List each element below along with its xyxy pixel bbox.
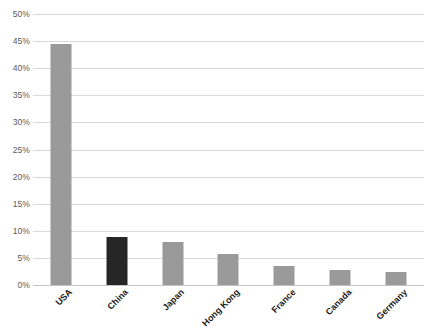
- x-label-slot: USA: [33, 287, 89, 334]
- x-axis-tick-label-japan: Japan: [160, 287, 185, 312]
- y-axis-tick-label: 25%: [0, 146, 30, 155]
- x-label-slot: Germany: [368, 287, 424, 334]
- y-axis-tick-labels: 50%45%40%35%30%25%20%15%10%5%0%: [0, 14, 30, 285]
- x-axis-tick-label-germany: Germany: [374, 287, 409, 322]
- x-label-slot: China: [89, 287, 145, 334]
- bar-slot: [33, 14, 89, 285]
- bar-slot: [368, 14, 424, 285]
- y-axis-tick-label: 15%: [0, 200, 30, 209]
- y-axis-tick-label: 45%: [0, 37, 30, 46]
- y-axis-tick-label: 30%: [0, 118, 30, 127]
- bar-slot: [201, 14, 257, 285]
- x-axis-tick-label-china: China: [105, 287, 130, 312]
- x-label-slot: France: [256, 287, 312, 334]
- bar-china[interactable]: [106, 237, 127, 285]
- x-axis-tick-label-france: France: [269, 287, 297, 315]
- bar-slot: [89, 14, 145, 285]
- bar-germany[interactable]: [386, 272, 407, 285]
- y-axis-tick-label: 0%: [0, 281, 30, 290]
- y-axis-tick-label: 10%: [0, 227, 30, 236]
- bar-slot: [312, 14, 368, 285]
- x-label-slot: Japan: [145, 287, 201, 334]
- y-axis-tick-label: 20%: [0, 173, 30, 182]
- bar-slot: [145, 14, 201, 285]
- y-axis-tick-label: 5%: [0, 254, 30, 263]
- bar-usa[interactable]: [50, 44, 71, 285]
- y-axis-tick-label: 40%: [0, 64, 30, 73]
- x-label-slot: Hong Kong: [201, 287, 257, 334]
- chart-title: [0, 0, 428, 3]
- bar-japan[interactable]: [162, 242, 183, 285]
- bar-canada[interactable]: [330, 270, 351, 285]
- y-axis-tick-label: 50%: [0, 10, 30, 19]
- x-axis-category-labels: USAChinaJapanHong KongFranceCanadaGerman…: [33, 287, 424, 334]
- x-axis-line: [33, 285, 424, 286]
- x-axis-tick-label-hong-kong: Hong Kong: [200, 287, 241, 328]
- bar-france[interactable]: [274, 266, 295, 285]
- bar-chart: 50%45%40%35%30%25%20%15%10%5%0% USAChina…: [0, 0, 428, 334]
- x-label-slot: Canada: [312, 287, 368, 334]
- bar-hong-kong[interactable]: [218, 254, 239, 285]
- bar-slot: [256, 14, 312, 285]
- x-axis-tick-label-canada: Canada: [323, 287, 353, 317]
- x-axis-tick-label-usa: USA: [53, 287, 74, 308]
- bars-layer: [33, 14, 424, 285]
- y-axis-tick-label: 35%: [0, 91, 30, 100]
